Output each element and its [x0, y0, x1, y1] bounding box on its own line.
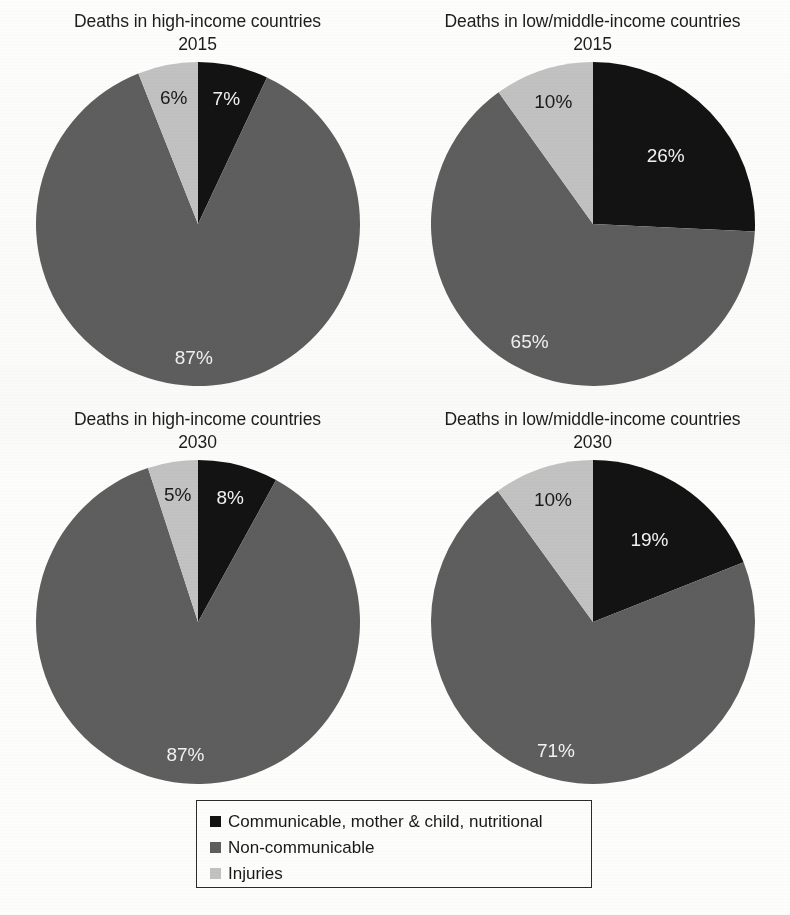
chart-panel-high-income-2030: Deaths in high-income countries 2030 8%8…: [0, 408, 395, 808]
pie-high-income-2015: 7%87%6%: [33, 59, 363, 389]
pie-svg: 7%87%6%: [33, 59, 363, 389]
chart-panel-low-middle-income-2015: Deaths in low/middle-income countries 20…: [395, 10, 790, 410]
chart-title-text: Deaths in high-income countries: [74, 11, 321, 31]
chart-title-low-middle-income-2030: Deaths in low/middle-income countries 20…: [395, 408, 790, 454]
legend-swatch-icon-non-communicable: [210, 842, 221, 853]
pie-low-middle-income-2015: 26%65%10%: [428, 59, 758, 389]
chart-title-high-income-2015: Deaths in high-income countries 2015: [0, 10, 395, 56]
chart-year: 2015: [399, 33, 786, 56]
chart-legend: Communicable, mother & child, nutritiona…: [196, 800, 592, 888]
pie-slice-label-injuries: 10%: [533, 489, 571, 510]
pie-svg: 8%87%5%: [33, 457, 363, 787]
pie-slice-label-communicable: 19%: [630, 529, 668, 550]
chart-panel-high-income-2015: Deaths in high-income countries 2015 7%8…: [0, 10, 395, 410]
legend-label-communicable: Communicable, mother & child, nutritiona…: [228, 813, 543, 830]
pie-slice-label-communicable: 26%: [646, 145, 684, 166]
chart-title-text: Deaths in low/middle-income countries: [445, 409, 741, 429]
pie-slice-label-injuries: 10%: [534, 91, 572, 112]
pie-slice-label-non_communicable: 71%: [536, 740, 574, 761]
pie-slice-label-non_communicable: 87%: [166, 744, 204, 765]
pie-low-middle-income-2030: 19%71%10%: [428, 457, 758, 787]
chart-title-low-middle-income-2015: Deaths in low/middle-income countries 20…: [395, 10, 790, 56]
chart-year: 2015: [4, 33, 391, 56]
pie-slice-label-communicable: 8%: [216, 487, 244, 508]
chart-title-text: Deaths in low/middle-income countries: [445, 11, 741, 31]
chart-year: 2030: [4, 431, 391, 454]
pie-slice-label-injuries: 5%: [163, 484, 191, 505]
legend-item-communicable: Communicable, mother & child, nutritiona…: [210, 808, 591, 834]
pie-svg: 26%65%10%: [428, 59, 758, 389]
legend-swatch-icon-communicable: [210, 816, 221, 827]
pie-slice-label-injuries: 6%: [159, 87, 187, 108]
legend-item-injuries: Injuries: [210, 860, 591, 886]
pie-slice-label-non_communicable: 87%: [174, 347, 212, 368]
legend-item-non-communicable: Non-communicable: [210, 834, 591, 860]
legend-label-injuries: Injuries: [228, 865, 283, 882]
pie-chart-grid: Deaths in high-income countries 2015 7%8…: [0, 0, 790, 800]
chart-title-text: Deaths in high-income countries: [74, 409, 321, 429]
legend-label-non-communicable: Non-communicable: [228, 839, 374, 856]
legend-swatch-icon-injuries: [210, 868, 221, 879]
pie-high-income-2030: 8%87%5%: [33, 457, 363, 787]
chart-year: 2030: [399, 431, 786, 454]
pie-slice-label-communicable: 7%: [212, 88, 240, 109]
chart-panel-low-middle-income-2030: Deaths in low/middle-income countries 20…: [395, 408, 790, 808]
pie-slice-label-non_communicable: 65%: [510, 331, 548, 352]
chart-title-high-income-2030: Deaths in high-income countries 2030: [0, 408, 395, 454]
pie-svg: 19%71%10%: [428, 457, 758, 787]
